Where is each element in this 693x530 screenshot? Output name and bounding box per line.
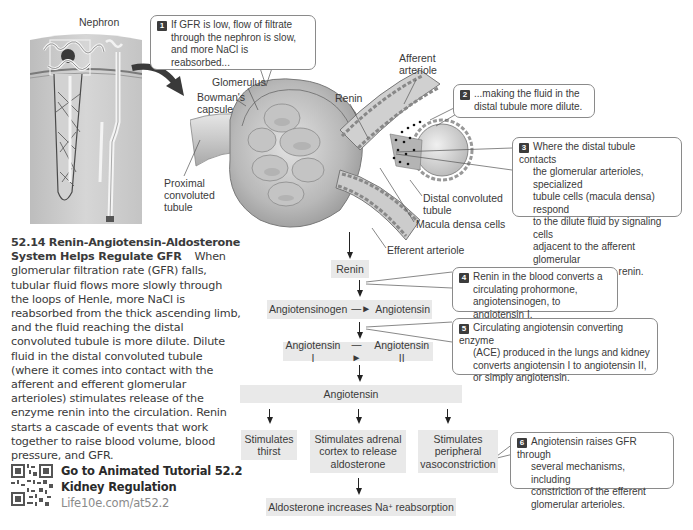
tutorial-url[interactable]: Life10e.com/at52.2 bbox=[61, 495, 242, 511]
callout-6: 6Angiotensin raises GFR through several … bbox=[510, 432, 674, 489]
callout-4: 4Renin in the blood converts a circulati… bbox=[452, 267, 618, 312]
callout-3: 3Where the distal tubule contacts the gl… bbox=[512, 137, 682, 217]
effect-adrenal-box: Stimulates adrenal cortex to release ald… bbox=[310, 430, 406, 473]
angiotensin-box: Angiotensin bbox=[240, 385, 462, 403]
callout-5: 5Circulating angiotensin converting enzy… bbox=[452, 318, 658, 375]
angiotensinogen-box: Angiotensinogen —► Angiotensin bbox=[267, 300, 432, 319]
caption-number: 52.14 bbox=[11, 236, 45, 249]
step-number-badge: 6 bbox=[517, 438, 527, 448]
step-number-badge: 3 bbox=[519, 143, 529, 153]
conversion-arrow-icon: —► bbox=[351, 303, 371, 316]
flow-arrowhead bbox=[357, 332, 363, 339]
flow-arrowhead bbox=[267, 417, 273, 424]
tutorial-subtitle[interactable]: Kidney Regulation bbox=[61, 479, 242, 495]
flow-arrowhead bbox=[347, 252, 353, 259]
step-number-badge: 4 bbox=[459, 273, 469, 283]
aldosterone-box: Aldosterone increases Na+ reabsorption bbox=[266, 498, 456, 516]
step-number-badge: 2 bbox=[460, 90, 470, 100]
flow-arrowhead bbox=[356, 488, 362, 495]
tutorial-link[interactable]: Go to Animated Tutorial 52.2 Kidney Regu… bbox=[61, 463, 242, 511]
flow-arrowhead bbox=[445, 417, 451, 424]
step-number-badge: 5 bbox=[459, 324, 469, 334]
figure-caption: 52.14 Renin-Angiotensin-Aldosterone Syst… bbox=[11, 236, 241, 463]
effect-thirst-box: Stimulates thirst bbox=[241, 430, 297, 460]
flow-arrowhead bbox=[357, 375, 363, 382]
renin-box: Renin bbox=[331, 260, 369, 278]
angiotensin-i-box: Angiotensin I —► Angiotensin II bbox=[283, 342, 433, 361]
effect-vasoconstriction-box: Stimulates peripheral vasoconstriction bbox=[418, 430, 498, 473]
conversion-arrow-icon: —► bbox=[347, 339, 367, 364]
flow-arrowhead bbox=[357, 290, 363, 297]
callout-1: 1If GFR is low, flow of filtrate through… bbox=[150, 15, 316, 70]
flow-arrow bbox=[349, 232, 350, 254]
callout-2: 2...making the fluid in the distal tubul… bbox=[453, 84, 595, 118]
flow-arrowhead bbox=[356, 417, 362, 424]
caption-body: When glomerular filtration rate (GFR) fa… bbox=[11, 250, 241, 462]
tutorial-title[interactable]: Go to Animated Tutorial 52.2 bbox=[61, 463, 242, 479]
step-number-badge: 1 bbox=[157, 21, 167, 31]
qr-code-icon[interactable] bbox=[11, 464, 53, 506]
